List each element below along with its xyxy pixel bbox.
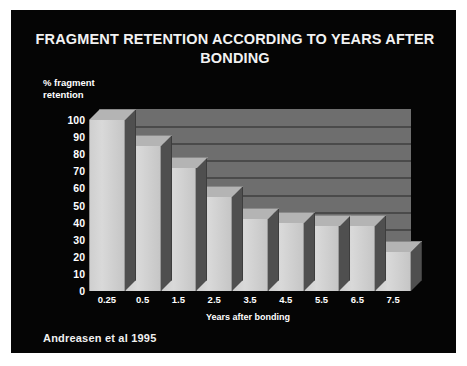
gridline [100,126,411,128]
citation-text: Andreasen et al 1995 [43,332,156,344]
y-tick-label: 100 [51,115,85,125]
y-axis-title: % fragment retention [43,77,95,100]
x-axis-title: Years after bonding [89,312,407,322]
x-tick-label: 2.5 [196,294,232,305]
x-tick-label: 6.5 [339,294,375,305]
y-tick-label: 40 [51,218,85,228]
x-tick-label: 3.5 [232,294,268,305]
bar-side-face [232,186,243,291]
bar-side-face [161,135,172,291]
slide-canvas: FRAGMENT RETENTION ACCORDING TO YEARS AF… [11,10,456,353]
y-tick-label: 30 [51,235,85,245]
bar-front-face [89,120,125,291]
y-tick-label: 70 [51,166,85,176]
x-tick-label: 4.5 [268,294,304,305]
y-tick-label: 50 [51,201,85,211]
bar-side-face [304,212,315,291]
x-axis-tick-labels: 0.250.51.52.53.54.55.56.57.5 [89,294,411,308]
y-tick-label: 10 [51,269,85,279]
chart-title: FRAGMENT RETENTION ACCORDING TO YEARS AF… [35,30,435,68]
bar-side-face [339,215,350,291]
bar-side-face [375,215,386,291]
bar-side-face [196,157,207,291]
x-tick-label: 1.5 [161,294,197,305]
bar-side-face [125,109,136,291]
y-tick-label: 0 [51,286,85,296]
plot-area [89,109,411,291]
x-tick-label: 0.5 [125,294,161,305]
x-tick-label: 5.5 [304,294,340,305]
y-tick-label: 90 [51,132,85,142]
x-tick-label: 7.5 [375,294,411,305]
bar-0.25[interactable] [89,120,125,291]
y-tick-label: 60 [51,183,85,193]
x-tick-label: 0.25 [89,294,125,305]
y-tick-label: 80 [51,149,85,159]
bar-side-face [268,208,279,291]
y-tick-label: 20 [51,252,85,262]
y-axis-tick-labels: 1009080706050403020100 [49,109,85,291]
